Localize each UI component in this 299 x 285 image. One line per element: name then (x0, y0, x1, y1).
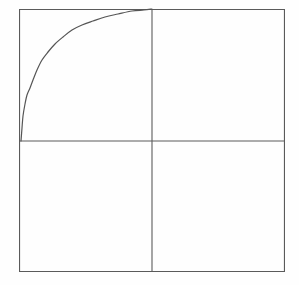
figure-container: Quadrant diagram with concave saturating… (0, 0, 299, 285)
figure-background (0, 0, 299, 285)
quadrant-curve-diagram (0, 0, 299, 285)
